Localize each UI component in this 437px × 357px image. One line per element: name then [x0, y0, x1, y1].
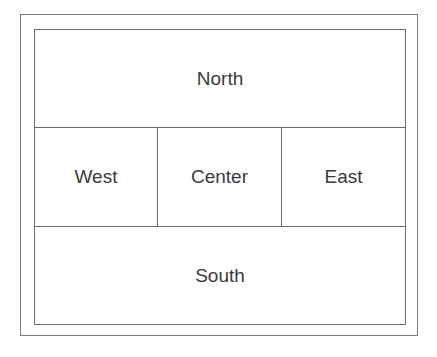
region-south: South [35, 226, 405, 324]
layout-container: North West Center East South [34, 29, 406, 325]
region-center: Center [157, 128, 282, 226]
region-east: East [282, 128, 405, 226]
region-west: West [35, 128, 157, 226]
region-north-label: North [197, 68, 243, 90]
region-north: North [35, 30, 405, 128]
region-west-label: West [75, 166, 118, 188]
region-south-label: South [195, 265, 245, 287]
region-east-label: East [324, 166, 362, 188]
region-center-label: Center [191, 166, 248, 188]
